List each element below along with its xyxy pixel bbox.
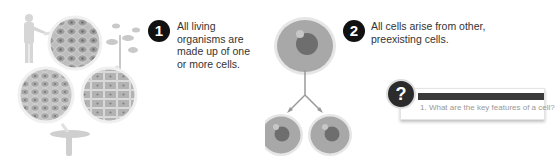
parent-cell-icon [274,17,336,75]
principle-1-line-2: organisms are [177,33,250,46]
daughter-cell-left-icon [265,114,303,156]
mushroom-icon [50,130,90,156]
principle-2-line-2: preexisting cells. [371,33,485,46]
question-text: 1. What are the key features of a cell? [420,103,555,112]
principle-1-line-3: made up of one [177,45,250,58]
principle-2-badge: 2 [343,20,365,42]
organisms-tissue-illustration [0,0,150,166]
principle-1-badge: 1 [148,20,170,42]
daughter-cell-right-icon [308,114,352,156]
question-mark-icon: ? [386,79,416,109]
cell-division-illustration [265,10,385,166]
principle-1-line-1: All living [177,20,250,33]
human-silhouette-icon [24,14,48,63]
question-header-bar [418,93,544,100]
plant-icon [106,24,140,71]
principle-1-line-4: or more cells. [177,58,250,71]
principle-1-text: All living organisms are made up of one … [177,20,250,70]
principle-2-text: All cells arise from other, preexisting … [371,20,485,45]
principle-2-line-1: All cells arise from other, [371,20,485,33]
